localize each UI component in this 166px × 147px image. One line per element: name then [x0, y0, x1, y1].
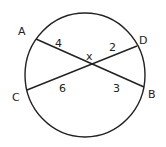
point-a-label: A — [18, 25, 26, 38]
segment-ax-length: 4 — [55, 37, 62, 50]
point-c-label: C — [12, 91, 20, 104]
segment-xd-length: 2 — [109, 41, 116, 54]
chord-cd — [27, 46, 137, 90]
segment-xb-length: 3 — [113, 82, 120, 95]
intersection-x-label: x — [86, 50, 93, 63]
circle-chords-diagram: A D C B x 4 2 6 3 — [0, 0, 166, 147]
circle — [25, 13, 145, 137]
segment-cx-length: 6 — [59, 82, 66, 95]
point-b-label: B — [148, 88, 156, 101]
point-d-label: D — [139, 34, 147, 47]
